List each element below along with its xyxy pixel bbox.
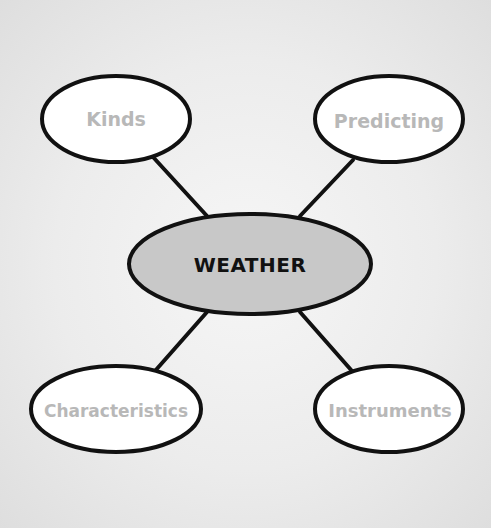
node-weather-label: WEATHER: [194, 253, 307, 277]
node-characteristics-label: Characteristics: [44, 401, 188, 421]
edge-weather-characteristics: [155, 312, 207, 371]
node-predicting: Predicting: [315, 76, 463, 162]
node-characteristics: Characteristics: [31, 366, 201, 452]
node-kinds-label: Kinds: [86, 108, 146, 130]
concept-map-canvas: Kinds Predicting Characteristics Instrum…: [0, 0, 491, 528]
node-instruments-label: Instruments: [328, 400, 452, 421]
edge-weather-predicting: [300, 160, 353, 216]
node-predicting-label: Predicting: [334, 110, 444, 132]
edge-weather-instruments: [300, 312, 352, 371]
edge-weather-kinds: [153, 157, 207, 216]
node-instruments: Instruments: [315, 366, 463, 452]
node-weather: WEATHER: [129, 214, 371, 314]
concept-map: Kinds Predicting Characteristics Instrum…: [0, 0, 491, 528]
node-kinds: Kinds: [42, 76, 190, 162]
